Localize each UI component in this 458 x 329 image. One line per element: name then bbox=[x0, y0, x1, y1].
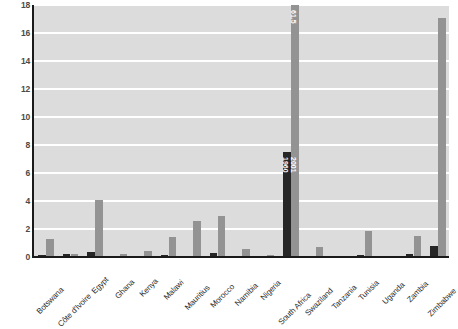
x-label-egypt: Egypt bbox=[90, 275, 110, 295]
x-label-malawi: Malawi bbox=[162, 278, 186, 302]
x-label-nigeria: Nigeria bbox=[259, 278, 283, 302]
x-label-zimbabwe: Zimbabwe bbox=[426, 287, 458, 319]
y-tick-label: 10 bbox=[0, 112, 30, 122]
x-label-tunisia: Tunisia bbox=[357, 279, 381, 303]
x-label-swaziland: Swaziland bbox=[304, 286, 336, 318]
y-tick-label: 16 bbox=[0, 28, 30, 38]
y-tick-label: 14 bbox=[0, 56, 30, 66]
x-label-uganda: Uganda bbox=[380, 280, 406, 306]
y-tick-label: 6 bbox=[0, 168, 30, 178]
x-label-zambia: Zambia bbox=[405, 279, 430, 304]
x-label-botswana: Botswana bbox=[35, 285, 66, 316]
y-tick-label: 18 bbox=[0, 0, 30, 10]
y-tick-label: 4 bbox=[0, 196, 30, 206]
x-label-morocco: Morocco bbox=[208, 282, 236, 310]
y-tick-label: 2 bbox=[0, 224, 30, 234]
x-label-c-te-d-ivoire: Côte d'Ivoire bbox=[56, 292, 93, 329]
y-tick-label: 12 bbox=[0, 84, 30, 94]
x-label-kenya: Kenya bbox=[138, 277, 160, 299]
x-axis-category-labels: BotswanaCôte d'IvoireEgyptGhanaKenyaMala… bbox=[0, 258, 454, 323]
x-label-ghana: Ghana bbox=[113, 278, 136, 301]
y-tick-label: 8 bbox=[0, 140, 30, 150]
x-label-mauritius: Mauritius bbox=[183, 283, 212, 312]
x-label-tanzania: Tanzania bbox=[330, 283, 358, 311]
x-label-namibia: Namibia bbox=[233, 281, 260, 308]
